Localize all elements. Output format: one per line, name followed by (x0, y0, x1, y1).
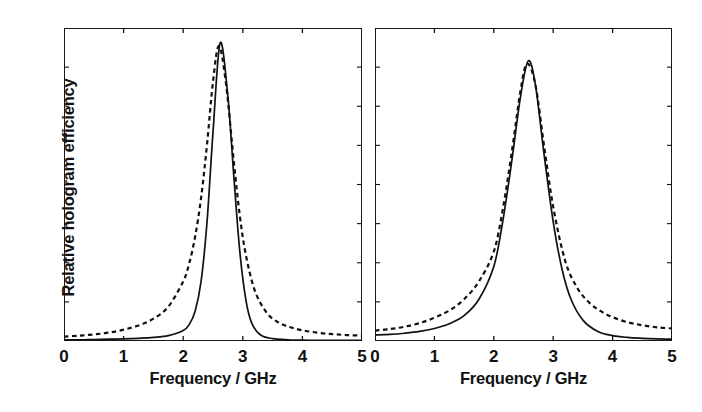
x-axis-ticklabels-left: 012345 (64, 347, 362, 369)
x-axis-title-left: Frequency / GHz (64, 369, 362, 388)
x-tick-label: 3 (228, 347, 258, 367)
x-tick-label: 1 (109, 347, 139, 367)
x-tick-label: 3 (538, 347, 568, 367)
x-tick-label: 0 (49, 347, 79, 367)
plot-curves-left (64, 28, 362, 341)
plot-curves-right (375, 28, 672, 341)
figure-container: Relative hologram efficiency 012345 0123… (0, 0, 702, 412)
x-tick-label: 4 (287, 347, 317, 367)
x-tick-label: 0 (360, 347, 390, 367)
dashed-curve (64, 46, 362, 337)
solid-curve (375, 61, 672, 340)
x-tick-label: 1 (419, 347, 449, 367)
plot-panel-right (375, 28, 672, 341)
x-axis-ticklabels-right: 012345 (375, 347, 672, 369)
x-tick-label: 2 (168, 347, 198, 367)
x-tick-label: 5 (657, 347, 687, 367)
dashed-curve (375, 64, 672, 331)
plot-panel-left (64, 28, 362, 341)
x-tick-label: 2 (479, 347, 509, 367)
x-axis-title-right: Frequency / GHz (375, 369, 672, 388)
x-tick-label: 4 (598, 347, 628, 367)
